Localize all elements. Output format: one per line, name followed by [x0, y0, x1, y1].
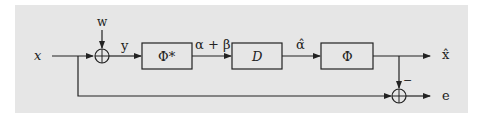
label-alpha-hat: α̂	[296, 38, 305, 51]
summing-junction-2	[392, 89, 406, 103]
label-alpha-plus-beta: α + β	[195, 38, 230, 51]
label-phi-star: Φ*	[158, 50, 175, 63]
diagram-background	[15, 5, 468, 113]
block-diagram	[0, 0, 489, 116]
label-x: x	[34, 49, 41, 62]
label-w: w	[97, 16, 107, 28]
label-minus-sign: −	[403, 75, 412, 86]
label-d: D	[252, 50, 262, 63]
label-e: e	[442, 89, 450, 102]
label-x-hat: x̂	[442, 48, 449, 61]
label-y: y	[121, 39, 128, 52]
label-phi: Φ	[342, 50, 353, 63]
summing-junction-1	[95, 49, 109, 63]
